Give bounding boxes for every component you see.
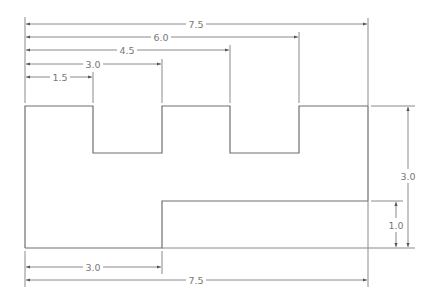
dimension-3-0-top: 3.0 (26, 58, 161, 70)
dimension-label: 4.5 (119, 45, 134, 56)
dimension-label: 3.0 (400, 171, 415, 182)
dimension-label: 1.0 (388, 220, 403, 231)
dimension-label: 1.5 (52, 72, 67, 83)
part-profile (25, 106, 368, 248)
dimension-7-5-bottom: 7.5 (26, 274, 367, 286)
dimension-label: 3.0 (85, 262, 100, 273)
dimension-3-0-bottom: 3.0 (26, 261, 161, 273)
dimension-1-0-right: 1.0 (388, 202, 404, 247)
technical-drawing: 7.5 6.0 4.5 3.0 1.5 3.0 7.5 3.0 (0, 0, 436, 302)
dimension-label: 6.0 (153, 32, 168, 43)
dimension-4-5-top: 4.5 (26, 44, 229, 56)
extension-lines (25, 17, 415, 287)
dimension-7-5-top: 7.5 (26, 18, 367, 30)
dimension-label: 3.0 (85, 59, 100, 70)
dimension-label: 7.5 (188, 19, 203, 30)
dimension-label: 7.5 (188, 275, 203, 286)
dimension-6-0-top: 6.0 (26, 31, 298, 43)
dimension-1-5-top: 1.5 (26, 71, 92, 83)
